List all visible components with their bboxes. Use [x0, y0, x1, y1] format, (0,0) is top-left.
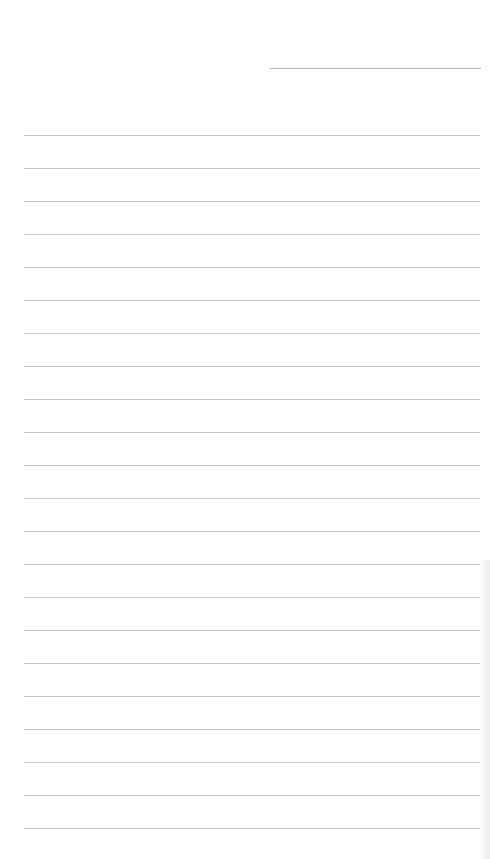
header-date-line [270, 68, 481, 69]
ruled-line [24, 597, 480, 598]
ruled-line [24, 663, 480, 664]
ruled-line [24, 234, 480, 235]
page-edge-shadow [480, 560, 490, 859]
ruled-line [24, 333, 480, 334]
ruled-line [24, 465, 480, 466]
ruled-line [24, 531, 480, 532]
ruled-line [24, 399, 480, 400]
ruled-line [24, 795, 480, 796]
ruled-line [24, 366, 480, 367]
ruled-line [24, 168, 480, 169]
ruled-line [24, 135, 480, 136]
ruled-line [24, 267, 480, 268]
ruled-line [24, 201, 480, 202]
ruled-line [24, 696, 480, 697]
ruled-line [24, 828, 480, 829]
ruled-line [24, 300, 480, 301]
ruled-line [24, 498, 480, 499]
ruled-line [24, 432, 480, 433]
ruled-line [24, 564, 480, 565]
lined-paper-page [0, 0, 490, 859]
ruled-line [24, 729, 480, 730]
ruled-line [24, 762, 480, 763]
ruled-line [24, 630, 480, 631]
